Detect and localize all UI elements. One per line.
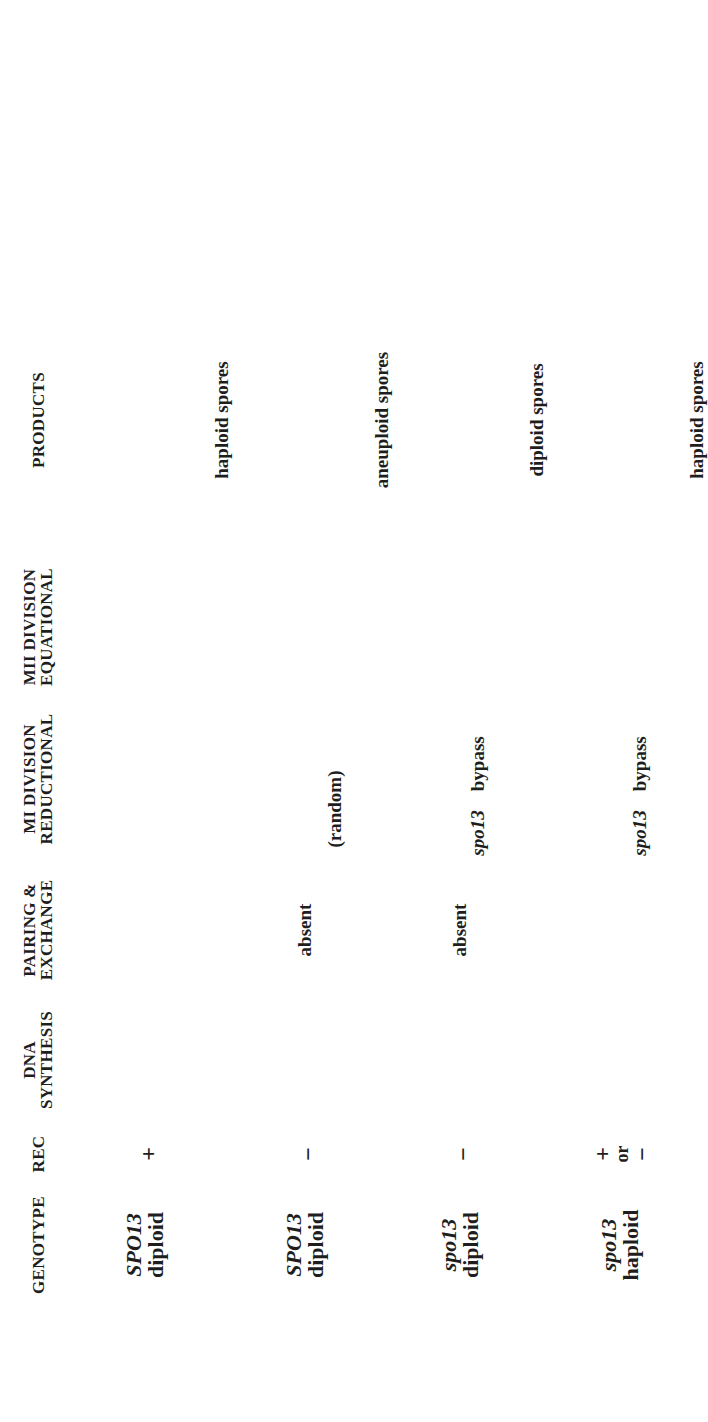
row4-rec: + or −	[592, 1146, 652, 1163]
header-mii-division: MII DIVISION EQUATIONAL	[21, 568, 55, 686]
header-products: PRODUCTS	[30, 372, 47, 468]
row4-bypass-word: bypass	[629, 736, 650, 791]
row4-products-label: haploid spores	[686, 361, 708, 478]
header-pairing-line2: EXCHANGE	[38, 880, 55, 981]
row1-genotype: SPO13 diploid	[123, 1212, 167, 1278]
row3-bypass-word: bypass	[467, 736, 488, 791]
header-mi-division: MI DIVISION REDUCTIONAL	[21, 714, 55, 845]
row2-pairing-absent: absent	[294, 904, 316, 957]
header-mi-line1: MI DIVISION	[21, 714, 38, 845]
row4-bypass-space	[629, 796, 650, 806]
header-pairing-exchange: PAIRING & EXCHANGE	[21, 880, 55, 981]
row4-gene: spo13	[598, 1210, 620, 1281]
row2-gene: SPO13	[283, 1212, 305, 1278]
header-dna-line1: DNA	[21, 1011, 38, 1109]
row4-ploidy: haploid	[620, 1210, 642, 1281]
row3-bypass-space	[467, 796, 488, 806]
header-genotype: GENOTYPE	[30, 1196, 47, 1294]
header-pairing-line1: PAIRING &	[21, 880, 38, 981]
row4-mi-bypass-label: spo13 bypass	[629, 736, 651, 855]
row4-rec-plus: +	[592, 1146, 612, 1163]
row4-genotype: spo13 haploid	[598, 1210, 642, 1281]
header-dna-line2: SYNTHESIS	[38, 1011, 55, 1109]
row3-rec: −	[450, 1147, 477, 1161]
row1-gene: SPO13	[123, 1212, 145, 1278]
row3-ploidy: diploid	[460, 1212, 482, 1278]
header-dna-synthesis: DNA SYNTHESIS	[21, 1011, 55, 1109]
row4-bypass-gene: spo13	[629, 810, 650, 855]
row1-ploidy: diploid	[145, 1212, 167, 1278]
row3-gene: spo13	[438, 1212, 460, 1278]
row3-bypass-gene: spo13	[467, 810, 488, 855]
header-mii-line2: EQUATIONAL	[38, 568, 55, 686]
row2-mi-random-note: (random)	[324, 770, 346, 847]
header-mii-line1: MII DIVISION	[21, 568, 38, 686]
header-rec: REC	[30, 1136, 47, 1173]
row2-products-label: aneuploid spores	[371, 352, 393, 488]
row3-pairing-absent: absent	[449, 904, 471, 957]
row3-mi-bypass-label: spo13 bypass	[467, 736, 489, 855]
header-products-label: PRODUCTS	[30, 372, 47, 468]
row2-ploidy: diploid	[305, 1212, 327, 1278]
row4-rec-minus: −	[632, 1146, 652, 1163]
header-genotype-label: GENOTYPE	[30, 1196, 47, 1294]
row3-genotype: spo13 diploid	[438, 1212, 482, 1278]
header-mi-line2: REDUCTIONAL	[38, 714, 55, 845]
row1-products-label: haploid spores	[211, 361, 233, 478]
row3-products-label: diploid spores	[526, 363, 548, 476]
header-rec-label: REC	[30, 1136, 47, 1173]
row2-genotype: SPO13 diploid	[283, 1212, 327, 1278]
row1-rec: +	[135, 1147, 162, 1161]
row2-rec: −	[295, 1147, 322, 1161]
